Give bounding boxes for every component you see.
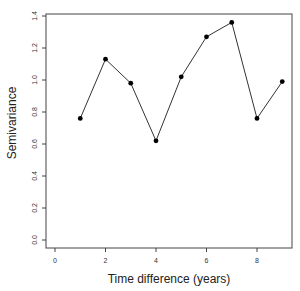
plot-frame <box>46 14 292 248</box>
data-point <box>179 74 184 79</box>
x-axis-label: Time difference (years) <box>108 272 231 286</box>
data-point <box>280 79 285 84</box>
x-axis: 02468 <box>53 248 259 264</box>
y-tick-label: 1.4 <box>31 11 38 21</box>
x-tick-label: 0 <box>53 257 57 264</box>
y-axis-label: Semivariance <box>5 86 19 159</box>
data-line <box>80 22 282 140</box>
data-point <box>229 20 234 25</box>
semivariogram-chart: 0.00.20.40.60.81.01.21.4 02468 Time diff… <box>0 0 300 291</box>
data-point <box>103 57 108 62</box>
x-tick-label: 6 <box>205 257 209 264</box>
data-point <box>255 116 260 121</box>
x-tick-label: 2 <box>104 257 108 264</box>
y-tick-label: 0.0 <box>31 235 38 245</box>
y-tick-label: 0.2 <box>31 203 38 213</box>
y-axis: 0.00.20.40.60.81.01.21.4 <box>31 11 46 245</box>
data-point <box>154 138 159 143</box>
x-tick-label: 4 <box>154 257 158 264</box>
y-tick-label: 0.4 <box>31 171 38 181</box>
x-tick-label: 8 <box>255 257 259 264</box>
y-tick-label: 0.8 <box>31 107 38 117</box>
data-point <box>128 81 133 86</box>
data-points <box>78 20 285 143</box>
y-tick-label: 0.6 <box>31 139 38 149</box>
y-tick-label: 1.2 <box>31 43 38 53</box>
data-point <box>204 34 209 39</box>
y-tick-label: 1.0 <box>31 75 38 85</box>
data-point <box>78 116 83 121</box>
